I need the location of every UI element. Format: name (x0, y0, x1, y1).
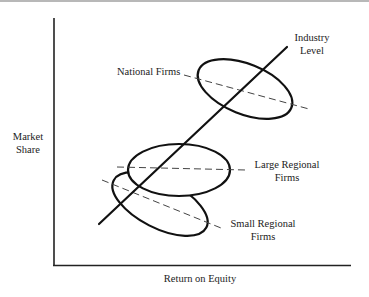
y-axis-label-line1: Market (13, 131, 43, 142)
small-regional-firms-label-line1: Small Regional (230, 218, 295, 229)
large-regional-firms-label-line1: Large Regional (255, 159, 320, 170)
y-axis-label-line2: Share (16, 144, 40, 155)
x-axis-label: Return on Equity (164, 273, 237, 284)
large-regional-firms-trend-line (117, 167, 246, 170)
diagram-canvas: Market Share Return on Equity National F… (0, 0, 369, 297)
national-firms-label: National Firms (117, 66, 180, 77)
small-regional-firms-label-line2: Firms (251, 231, 276, 242)
industry-level-label-line1: Industry (295, 32, 331, 43)
industry-level-label-line2: Level (300, 45, 324, 56)
national-firms-ellipse (189, 47, 300, 131)
large-regional-firms-label-line2: Firms (275, 172, 300, 183)
